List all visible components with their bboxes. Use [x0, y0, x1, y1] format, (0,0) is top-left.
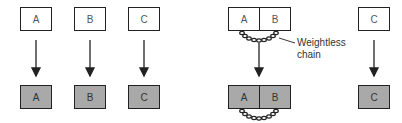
annotation-line-2: chain: [297, 49, 346, 61]
arrows-and-chains: [0, 0, 402, 123]
weightless-chain-annotation: Weightless chain: [297, 37, 346, 61]
annotation-line-1: Weightless: [297, 37, 346, 49]
annotation-leader-line: [279, 38, 295, 43]
